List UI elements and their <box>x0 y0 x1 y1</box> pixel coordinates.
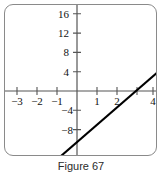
plot-canvas <box>5 5 156 155</box>
figure-caption: Figure 67 <box>0 160 162 172</box>
y-tick-label--4: −4 <box>61 105 73 116</box>
y-tick-label-12: 12 <box>58 28 69 39</box>
figure-container: −3 −2 −1 1 2 3 4 16 12 8 4 −4 −8 Figure … <box>0 0 162 174</box>
y-tick-label-4: 4 <box>64 66 70 77</box>
y-tick-label--8: −8 <box>61 124 73 135</box>
x-tick-label-1: 1 <box>94 96 100 107</box>
x-tick-label--3: −3 <box>11 96 23 107</box>
plot-frame: −3 −2 −1 1 2 3 4 16 12 8 4 −4 −8 <box>4 4 157 156</box>
x-tick-label-2: 2 <box>114 96 120 107</box>
y-tick-label-16: 16 <box>58 8 69 19</box>
y-tick-label-8: 8 <box>64 47 70 58</box>
x-tick-label-4: 4 <box>150 96 156 107</box>
x-tick-label--2: −2 <box>31 96 43 107</box>
